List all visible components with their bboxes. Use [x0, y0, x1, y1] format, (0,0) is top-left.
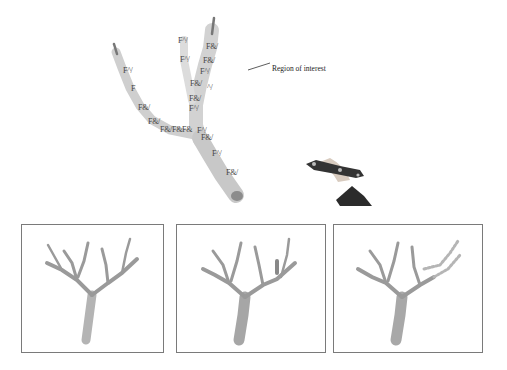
segment-label: F	[131, 84, 135, 93]
segment-label: F^/	[189, 104, 199, 113]
paper-figure: F^/ F&/ F^/ F&/ F^/ F&/ ^/ F&/ F^/ F^/ F…	[0, 0, 507, 370]
segment-label: F^/	[178, 36, 188, 45]
segment-label: F&/	[138, 103, 150, 112]
tree-illustration	[334, 225, 484, 354]
tree-illustration	[177, 225, 327, 354]
segment-label: F&/	[190, 79, 202, 88]
tree-illustration	[22, 225, 165, 354]
segment-label: F&/	[203, 56, 215, 65]
segment-label: F&/F&F&	[160, 125, 192, 134]
segment-label: F&/	[189, 94, 201, 103]
tree-panel-1	[21, 224, 164, 353]
segment-label: F^/	[123, 66, 133, 75]
segment-label: F^/	[200, 67, 210, 76]
handheld-tool-icon	[306, 158, 372, 206]
segment-label: F&/	[206, 42, 218, 51]
main-tree-illustration	[0, 0, 507, 215]
tree-panel-3	[333, 224, 483, 353]
segment-label: F&/	[226, 168, 238, 177]
region-of-interest-label: Region of interest	[272, 64, 326, 73]
segment-label: F&/	[148, 117, 160, 126]
segment-label: F^/	[212, 149, 222, 158]
callout-line	[248, 63, 270, 70]
segment-label: F^/	[180, 55, 190, 64]
segment-label: ^/	[207, 83, 212, 92]
segment-label: F&/	[201, 133, 213, 142]
tree-panel-2	[176, 224, 326, 353]
